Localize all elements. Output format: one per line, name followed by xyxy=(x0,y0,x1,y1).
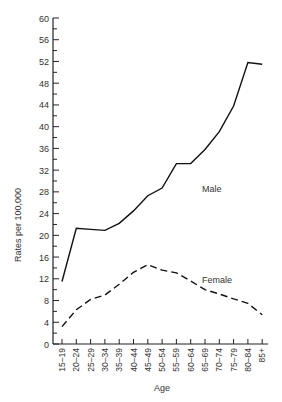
y-tick-label: 0 xyxy=(44,340,49,350)
y-tick-label: 8 xyxy=(44,296,49,306)
series-female-line xyxy=(62,265,262,327)
series-male-line xyxy=(62,63,262,282)
x-tick-label: 70–74 xyxy=(214,348,224,372)
y-tick-label: 32 xyxy=(39,166,49,176)
x-tick-label: 60–64 xyxy=(186,348,196,372)
y-tick-label: 24 xyxy=(39,209,49,219)
x-tick-label: 45–49 xyxy=(143,348,153,372)
x-tick-label: 35–39 xyxy=(114,348,124,372)
line-chart: 04812162024283236404448525660 15–1920–24… xyxy=(0,0,282,402)
x-tick-label: 55–59 xyxy=(171,348,181,372)
y-tick-label: 12 xyxy=(39,274,49,284)
y-tick-label: 56 xyxy=(39,35,49,45)
y-axis: 04812162024283236404448525660 xyxy=(39,14,59,350)
y-tick-label: 44 xyxy=(39,100,49,110)
y-tick-label: 28 xyxy=(39,187,49,197)
x-axis-label: Age xyxy=(154,383,170,393)
x-tick-label: 20–24 xyxy=(71,348,81,372)
x-tick-label: 15–19 xyxy=(57,348,67,372)
x-axis: 15–1920–2425–2930–3435–3940–4445–4950–54… xyxy=(53,339,268,372)
y-tick-label: 20 xyxy=(39,231,49,241)
x-tick-label: 85+ xyxy=(257,348,267,362)
series-group: MaleFemale xyxy=(62,63,262,327)
x-tick-label: 40–44 xyxy=(129,348,139,372)
series-male-label: Male xyxy=(202,184,222,194)
x-tick-label: 80–84 xyxy=(243,348,253,372)
y-tick-label: 40 xyxy=(39,122,49,132)
x-tick-label: 30–34 xyxy=(100,348,110,372)
x-tick-label: 75–79 xyxy=(229,348,239,372)
y-tick-label: 36 xyxy=(39,144,49,154)
y-tick-label: 16 xyxy=(39,253,49,263)
series-female-label: Female xyxy=(202,275,232,285)
x-tick-label: 25–29 xyxy=(86,348,96,372)
x-tick-label: 65–69 xyxy=(200,348,210,372)
y-tick-label: 52 xyxy=(39,57,49,67)
y-tick-label: 4 xyxy=(44,318,49,328)
y-axis-label: Rates per 100,000 xyxy=(13,188,23,262)
x-tick-label: 50–54 xyxy=(157,348,167,372)
y-tick-label: 60 xyxy=(39,14,49,24)
y-tick-label: 48 xyxy=(39,79,49,89)
